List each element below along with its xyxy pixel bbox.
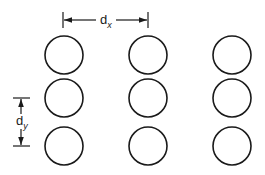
dx-label-main: d [100, 12, 107, 27]
circle-r1-c2 [129, 36, 167, 74]
circle-r2-c2 [129, 79, 167, 117]
dy-label-subscript: y [22, 121, 28, 131]
dx-label: dx [100, 12, 112, 30]
circle-r1-c1 [45, 36, 83, 74]
dx-label-subscript: x [106, 20, 112, 30]
circle-r1-c3 [213, 36, 251, 74]
circle-r2-c1 [45, 79, 83, 117]
circle-grid [45, 36, 251, 165]
dy-label: dy [16, 113, 28, 131]
circle-r3-c2 [129, 127, 167, 165]
hole-spacing-diagram: dx dy [0, 0, 265, 175]
dy-label-main: d [16, 113, 23, 128]
circle-r3-c1 [45, 127, 83, 165]
circle-r3-c3 [213, 127, 251, 165]
circle-r2-c3 [213, 79, 251, 117]
